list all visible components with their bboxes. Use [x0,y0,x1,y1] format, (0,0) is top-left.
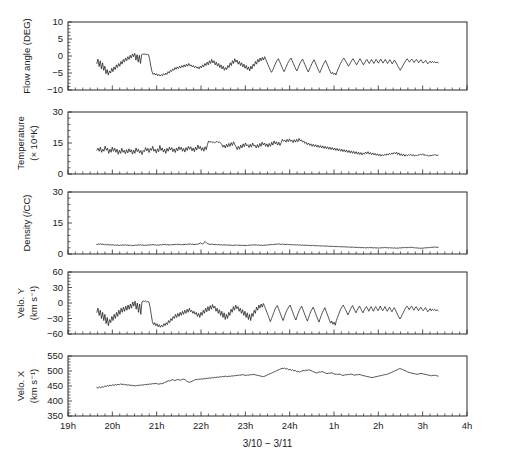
x-tick-label: 23h [237,420,253,431]
data-trace-velocity-y [97,301,438,327]
y-tick-label: 0 [58,168,63,179]
x-tick-label: 24h [282,420,298,431]
x-tick-label: 21h [149,420,165,431]
y-tick-label: 450 [47,380,63,391]
data-trace-velocity-x [97,368,438,388]
y-tick-label: −30 [47,313,63,324]
y-tick-label: −10 [47,84,63,95]
multi-panel-timeseries-chart: 1050−5−10Flow angle (DEG)30150Temperatur… [0,0,505,464]
panel-flow-angle: 1050−5−10Flow angle (DEG) [21,16,467,95]
y-axis-title: Density (/CC) [21,194,32,251]
x-tick-label: 19h [60,420,76,431]
y-axis-title: Velo. X [15,370,26,401]
x-tick-label: 2h [373,420,384,431]
x-tick-label: 4h [462,420,473,431]
y-tick-label: 10 [52,16,63,27]
x-tick-label: 20h [104,420,120,431]
y-tick-label: −60 [47,328,63,339]
panel-frame [68,356,467,416]
y-tick-label: 0 [58,248,63,259]
panel-frame [68,272,467,334]
y-axis-title-units: (× 10⁴K) [28,125,39,161]
panel-temperature: 30150Temperature(× 10⁴K) [15,106,467,179]
y-tick-label: 0 [58,50,63,61]
y-tick-label: 400 [47,395,63,406]
data-trace-density [97,242,438,249]
panel-velocity-x: 550500450400350Velo. X(km s⁻¹) [15,350,467,421]
x-axis-labels: 19h20h21h22h23h24h1h2h3h4h [60,420,472,431]
y-tick-label: 0 [58,297,63,308]
y-tick-label: 30 [52,106,63,117]
y-axis-title: Velo. Y [15,287,26,318]
x-tick-label: 3h [417,420,428,431]
y-tick-label: 30 [52,282,63,293]
y-tick-label: 30 [52,186,63,197]
y-tick-label: −5 [52,67,63,78]
y-axis-title: Flow angle (DEG) [21,18,32,94]
y-axis-title-units: (km s⁻¹) [28,369,39,404]
y-tick-label: 60 [52,266,63,277]
y-tick-label: 15 [52,137,63,148]
data-trace-temperature [97,138,438,156]
panel-velocity-y: 60300−30−60Velo. Y(km s⁻¹) [15,266,467,339]
figure-caption: Fig. 2. Solar wind plasma parameters [22,452,342,462]
solar-wind-figure: 1050−5−10Flow angle (DEG)30150Temperatur… [0,0,505,464]
x-tick-label: 22h [193,420,209,431]
y-axis-title-units: (km s⁻¹) [28,286,39,321]
y-tick-label: 500 [47,365,63,376]
panel-frame [68,112,467,174]
panel-frame [68,22,467,90]
data-trace-flow-angle [97,53,438,76]
y-tick-label: 5 [58,33,63,44]
x-tick-label: 1h [329,420,340,431]
y-tick-label: 15 [52,217,63,228]
y-axis-title: Temperature [15,116,26,169]
figure-caption-text: Fig. 2. Solar wind plasma parameters [22,461,121,462]
x-axis-title: 3/10 − 3/11 [243,438,293,449]
panel-density: 30150Density (/CC) [21,186,467,259]
y-tick-label: 550 [47,350,63,361]
